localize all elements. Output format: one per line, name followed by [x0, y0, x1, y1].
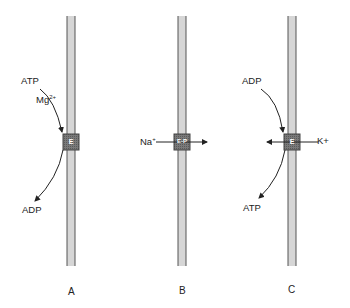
label-mg-a: Mg2+	[36, 94, 56, 105]
panel-label-b: B	[179, 286, 186, 296]
label-atp-c: ATP	[243, 203, 261, 213]
label-na-b: Na+	[140, 136, 156, 147]
panel-label-c: C	[288, 285, 295, 295]
arrow-adp-in-c	[261, 89, 283, 132]
label-atp-a: ATP	[21, 76, 39, 86]
enzyme-label-b: E-P	[175, 138, 189, 144]
diagram-canvas	[0, 0, 350, 308]
label-adp-a: ADP	[22, 205, 42, 215]
enzyme-label-a: E	[64, 138, 78, 145]
enzyme-label-c: E	[285, 138, 299, 145]
label-adp-c: ADP	[242, 76, 262, 86]
arrow-atp-out-c	[259, 150, 285, 198]
panel-label-a: A	[68, 287, 75, 297]
label-k-c: K+	[317, 136, 329, 146]
arrow-adp-out-a	[35, 150, 63, 201]
